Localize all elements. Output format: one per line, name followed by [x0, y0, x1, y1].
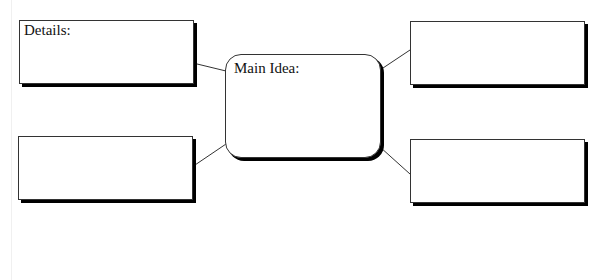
main-idea-label: Main Idea:: [234, 60, 299, 77]
connector-bottom-left: [192, 144, 226, 167]
detail-box-label: Details:: [24, 22, 71, 39]
page-edge: [11, 0, 12, 280]
connector-top-right: [380, 50, 410, 70]
connector-top-left: [193, 63, 226, 71]
main-idea-box[interactable]: Main Idea:: [225, 54, 381, 158]
detail-box-top-right[interactable]: [410, 21, 585, 85]
detail-box-bottom-left[interactable]: [18, 136, 193, 200]
connector-bottom-right: [380, 147, 410, 174]
detail-box-top-left[interactable]: Details:: [19, 20, 194, 84]
detail-box-bottom-right[interactable]: [410, 139, 585, 203]
